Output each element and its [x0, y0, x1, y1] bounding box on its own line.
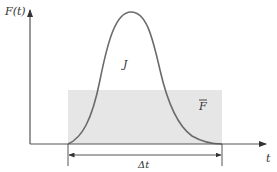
x-axis-label: t: [266, 152, 271, 165]
impulse-diagram: F(t) t J F Δt: [0, 0, 277, 172]
interval-label: Δt: [137, 159, 150, 170]
average-force-label: F: [198, 100, 207, 113]
y-axis-label: F(t): [4, 5, 26, 18]
average-force-area: [68, 90, 222, 144]
impulse-label: J: [121, 58, 128, 71]
